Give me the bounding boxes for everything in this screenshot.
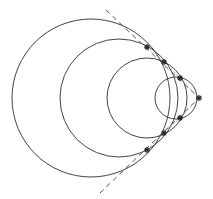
circle-3 <box>107 58 187 138</box>
nested-circles-diagram <box>0 0 213 199</box>
circle-1 <box>12 19 170 177</box>
marker-upper-2-star-icon <box>161 59 167 65</box>
circle-2 <box>60 39 178 157</box>
markers-group <box>144 44 202 153</box>
marker-lower-3-star-icon <box>177 115 183 121</box>
upper-tangent <box>106 10 199 98</box>
circles-group <box>12 19 197 177</box>
marker-apex-star-icon <box>196 95 202 101</box>
marker-lower-1-star-icon <box>144 147 150 153</box>
tangent-lines-group <box>100 10 199 193</box>
marker-lower-2-star-icon <box>161 130 167 136</box>
marker-upper-3-star-icon <box>177 75 183 81</box>
marker-upper-1-star-icon <box>144 44 150 50</box>
